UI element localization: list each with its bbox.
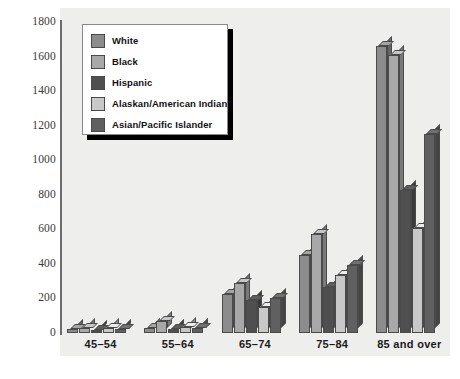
- y-tick-label: 1400: [4, 84, 56, 96]
- bar-front-face: [168, 329, 179, 333]
- bar-front-face: [323, 287, 334, 333]
- bar: [311, 229, 322, 333]
- legend-label: Asian/Pacific Islander: [112, 119, 212, 130]
- x-tick-label: 65–74: [216, 338, 293, 350]
- bar-front-face: [299, 255, 310, 333]
- x-tick-label: 55–64: [139, 338, 216, 350]
- y-tick-label: 1200: [4, 119, 56, 131]
- bar-front-face: [192, 328, 203, 333]
- bar-front-face: [103, 328, 114, 333]
- bar-front-face: [234, 283, 245, 333]
- bar-front-face: [335, 275, 346, 333]
- legend-swatch: [91, 118, 105, 132]
- x-tick-label: 45–54: [62, 338, 139, 350]
- bar-front-face: [412, 228, 423, 333]
- bar-front-face: [144, 328, 155, 333]
- legend-label: Black: [112, 56, 138, 67]
- bar: [91, 325, 102, 333]
- bar: [103, 323, 114, 333]
- bar-chart: 180016001400120010008006004002000 45–545…: [0, 0, 460, 379]
- legend-item: Black: [91, 52, 221, 71]
- bar: [222, 289, 233, 333]
- bar: [115, 324, 126, 333]
- y-tick-label: 0: [4, 326, 56, 338]
- bar: [400, 185, 411, 333]
- legend-item: White: [91, 31, 221, 50]
- bar: [388, 50, 399, 333]
- bar: [335, 270, 346, 333]
- legend-swatch: [91, 76, 105, 90]
- y-tick-label: 1000: [4, 153, 56, 165]
- legend-swatch: [91, 55, 105, 69]
- y-tick-label: 400: [4, 257, 56, 269]
- legend-label: Hispanic: [112, 77, 152, 88]
- bar: [376, 41, 387, 333]
- bar-front-face: [91, 330, 102, 333]
- bar-group: [376, 22, 446, 333]
- bar-front-face: [311, 234, 322, 333]
- y-tick-label: 800: [4, 188, 56, 200]
- bar: [246, 295, 257, 333]
- bar-front-face: [347, 265, 358, 333]
- chart-legend: WhiteBlackHispanicAlaskan/American India…: [82, 24, 228, 135]
- bar: [258, 302, 269, 333]
- y-tick-label: 1600: [4, 50, 56, 62]
- bar: [347, 260, 358, 333]
- bar: [192, 323, 203, 333]
- bar: [79, 323, 90, 333]
- bar-group: [299, 22, 369, 333]
- y-tick-label: 600: [4, 222, 56, 234]
- bar: [180, 322, 191, 333]
- bar-front-face: [424, 134, 435, 333]
- legend-item: Hispanic: [91, 73, 221, 92]
- bar-front-face: [222, 294, 233, 333]
- legend-swatch: [91, 34, 105, 48]
- bar-front-face: [115, 329, 126, 333]
- bar-front-face: [180, 327, 191, 333]
- bar: [323, 282, 334, 333]
- bar: [270, 293, 281, 333]
- bar: [412, 223, 423, 333]
- bar-front-face: [246, 300, 257, 333]
- bar-front-face: [400, 190, 411, 333]
- bar-side-face: [435, 124, 440, 328]
- bar: [299, 250, 310, 333]
- x-tick-label: 75–84: [294, 338, 371, 350]
- bar-front-face: [79, 328, 90, 333]
- bar-front-face: [270, 298, 281, 333]
- y-axis-tick-labels: 180016001400120010008006004002000: [0, 0, 56, 379]
- bar-side-face: [358, 255, 363, 328]
- bar-front-face: [156, 321, 167, 333]
- bar-front-face: [67, 329, 78, 333]
- legend-item: Alaskan/American Indian: [91, 94, 221, 113]
- y-tick-label: 1800: [4, 15, 56, 27]
- bar-front-face: [258, 307, 269, 333]
- x-tick-label: 85 and over: [371, 338, 448, 350]
- bar: [424, 129, 435, 333]
- x-axis-tick-labels: 45–5455–6465–7475–8485 and over: [62, 338, 448, 356]
- bar: [234, 278, 245, 333]
- legend-swatch: [91, 97, 105, 111]
- y-tick-label: 200: [4, 291, 56, 303]
- bar: [144, 323, 155, 333]
- bar-front-face: [388, 55, 399, 333]
- bar: [156, 316, 167, 333]
- bar: [67, 324, 78, 333]
- legend-label: White: [112, 35, 138, 46]
- legend-label: Alaskan/American Indian: [112, 98, 227, 109]
- bar: [168, 324, 179, 333]
- bar-front-face: [376, 46, 387, 333]
- legend-item: Asian/Pacific Islander: [91, 115, 221, 134]
